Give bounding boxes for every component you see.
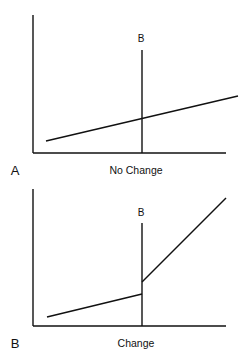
panel-b-post-line bbox=[142, 198, 226, 282]
panel-b-pre-line bbox=[47, 294, 142, 317]
diagram-canvas: B A No Change B B Change bbox=[0, 0, 249, 358]
panel-b-caption: Change bbox=[118, 337, 155, 349]
panel-a-caption: No Change bbox=[109, 164, 162, 176]
panel-a-label: A bbox=[11, 163, 20, 178]
panel-a: B A No Change bbox=[11, 15, 238, 178]
panel-b-label: B bbox=[11, 336, 20, 351]
panel-b: B B Change bbox=[11, 189, 226, 351]
panel-b-marker-label: B bbox=[138, 207, 145, 218]
panel-a-marker-label: B bbox=[138, 33, 145, 44]
